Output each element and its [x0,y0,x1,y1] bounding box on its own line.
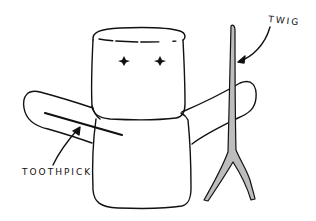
twig-label: TWIG [267,14,301,27]
right-arm [182,81,256,144]
left-eye-icon [118,56,130,66]
head-top-rim [93,28,185,40]
head-top-inner-rim [99,39,178,42]
toothpick-label: TOOTHPICK [21,167,92,177]
body [93,113,191,208]
right-eye-icon [154,56,166,66]
twig-arrowhead [238,56,245,63]
head [92,40,185,120]
marshmallow-figure-illustration: TWIG TOOTHPICK [0,0,316,221]
body-left-shoulder [92,106,100,119]
